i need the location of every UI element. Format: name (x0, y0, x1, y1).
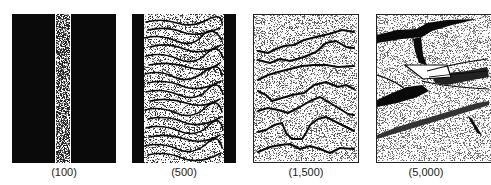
panel-500x (132, 14, 236, 163)
fiber-illustration-1500x (254, 15, 357, 161)
panel-label-100x: (100) (12, 166, 116, 178)
panel-100x (12, 14, 116, 163)
panel-label-5000x: (5,000) (376, 166, 476, 178)
fiber-illustration-500x (132, 14, 236, 163)
fiber-illustration-100x (12, 14, 116, 163)
fiber-illustration-5000x (377, 15, 491, 161)
panel-5000x (376, 14, 491, 163)
panel-label-1500x: (1,500) (253, 166, 359, 178)
panel-label-500x: (500) (132, 166, 236, 178)
panel-1500x (253, 14, 359, 163)
